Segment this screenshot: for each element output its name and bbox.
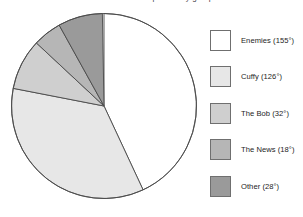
legend-item-label: The Bob (32°) bbox=[241, 109, 289, 118]
legend-color-swatch bbox=[210, 66, 231, 87]
legend-color-swatch bbox=[210, 103, 231, 124]
pie-slice-group bbox=[12, 14, 197, 199]
legend-color-swatch bbox=[210, 30, 231, 51]
legend-item-label: Other (28°) bbox=[241, 182, 279, 191]
legend-color-swatch bbox=[210, 139, 231, 160]
legend-item[interactable]: Enemies (155°) bbox=[210, 22, 303, 59]
legend-item-label: The News (18°) bbox=[241, 145, 295, 154]
legend-item[interactable]: Other (28°) bbox=[210, 168, 303, 205]
legend-item-label: Enemies (155°) bbox=[241, 36, 294, 45]
pie-chart-figure: distribution of responses by group Enemi… bbox=[0, 0, 303, 217]
legend-item[interactable]: Cuffy (126°) bbox=[210, 59, 303, 96]
legend-item[interactable]: The Bob (32°) bbox=[210, 95, 303, 132]
legend-item-label: Cuffy (126°) bbox=[241, 72, 282, 81]
legend-color-swatch bbox=[210, 176, 231, 197]
chart-legend: Enemies (155°)Cuffy (126°)The Bob (32°)T… bbox=[210, 22, 303, 205]
legend-item[interactable]: The News (18°) bbox=[210, 132, 303, 169]
